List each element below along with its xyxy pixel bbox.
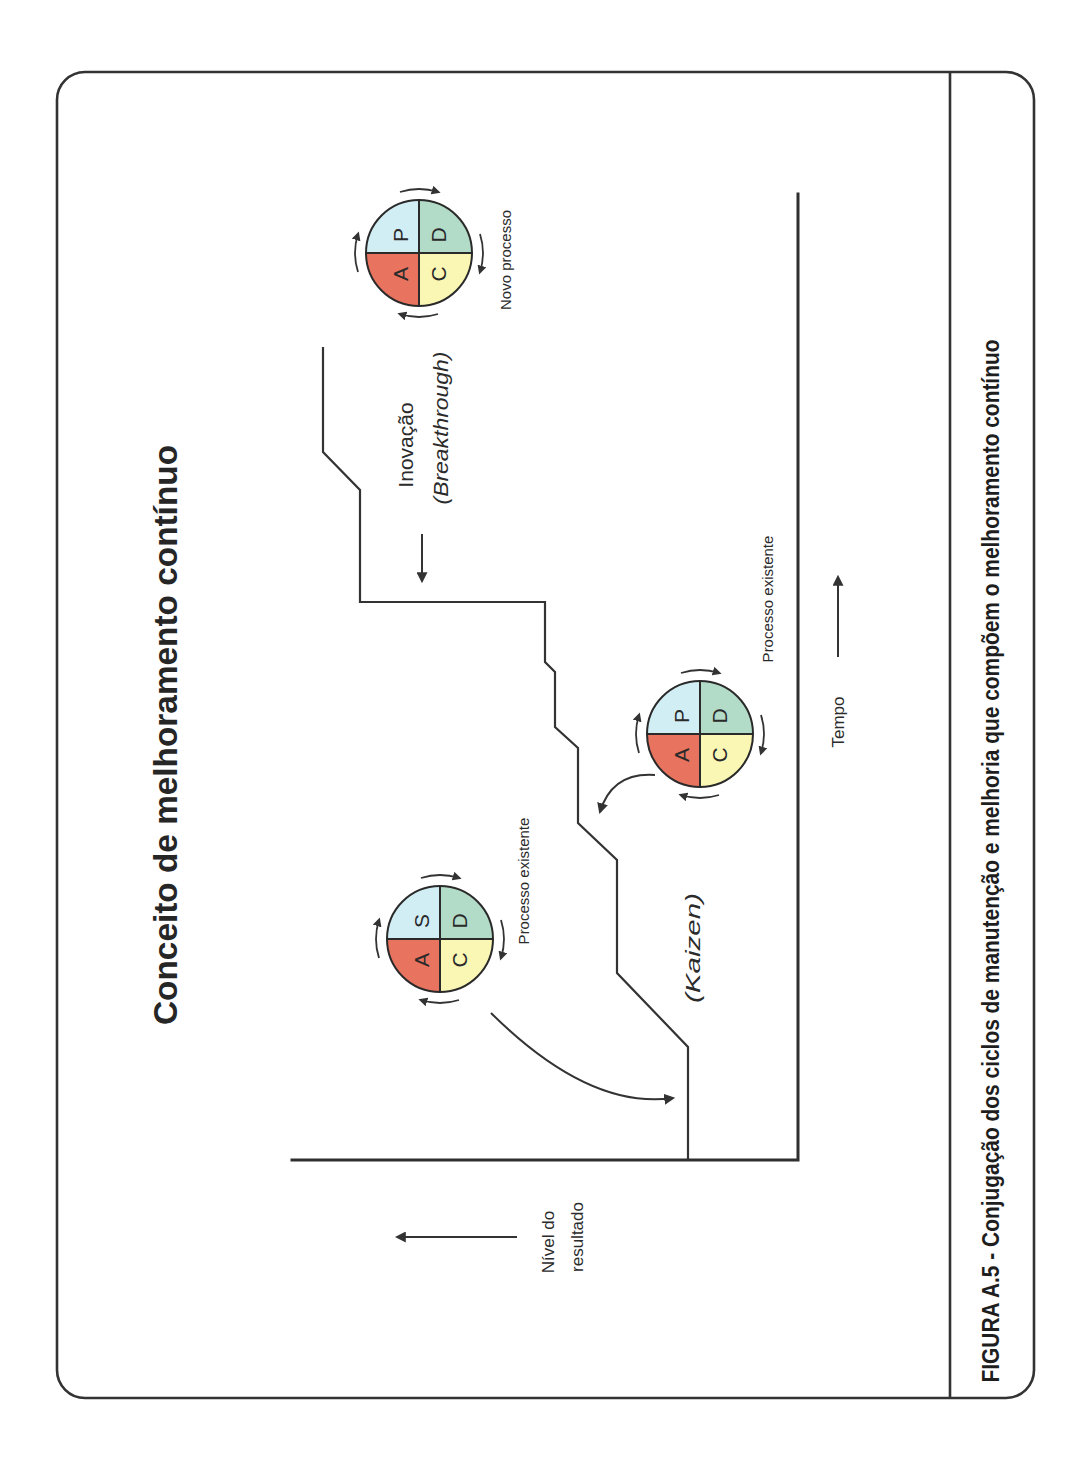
figure-frame xyxy=(57,72,1034,1398)
sdca-cycle-label: Processo existente xyxy=(515,818,532,945)
rotation-arrow-icon xyxy=(501,920,504,958)
x-axis-label: Tempo xyxy=(829,696,848,747)
rotation-arrow-icon xyxy=(636,715,639,753)
quadrant-letter-a: A xyxy=(389,267,412,281)
rotation-arrow-icon xyxy=(421,875,459,878)
quadrant-letter-c: C xyxy=(448,952,471,967)
quadrant-letter-p: P xyxy=(670,709,693,723)
pdca-to-step-arrow-icon xyxy=(600,775,655,812)
sdca-to-kaizen-arrow-icon xyxy=(491,1013,673,1099)
quadrant-letter-a: A xyxy=(670,748,693,762)
kaizen-label: (Kaizen) xyxy=(681,893,704,1003)
quadrant-letter-p: P xyxy=(389,228,412,242)
result-level-staircase xyxy=(323,347,688,1160)
pdca-existing-cycle-diagram: P D C A xyxy=(636,670,764,798)
quadrant-letter-d: D xyxy=(708,708,731,723)
chart-axes xyxy=(292,194,798,1160)
rotation-arrow-icon xyxy=(681,670,719,673)
pdca-new-cycle-diagram: P D C A xyxy=(355,189,483,317)
pdca-new-cycle-label: Novo processo xyxy=(497,210,514,310)
sdca-cycle-diagram: S D C A xyxy=(376,875,504,1003)
quadrant-letter-c: C xyxy=(427,266,450,281)
quadrant-letter-d: D xyxy=(448,913,471,928)
rotation-arrow-icon xyxy=(480,234,483,272)
continuous-improvement-figure: Conceito de melhoramento contínuo FIGURA… xyxy=(0,0,1080,1480)
quadrant-letter-s: S xyxy=(410,914,433,928)
figure-caption: FIGURA A.5 - Conjugação dos ciclos de ma… xyxy=(977,340,1004,1383)
rotation-arrow-icon xyxy=(355,234,358,272)
quadrant-letter-a: A xyxy=(410,953,433,967)
rotation-arrow-icon xyxy=(400,189,438,192)
quadrant-letter-c: C xyxy=(708,747,731,762)
innovation-label: Inovação xyxy=(394,402,417,487)
breakthrough-label: (Breakthrough) xyxy=(429,352,452,505)
figure-title: Conceito de melhoramento contínuo xyxy=(147,445,184,1025)
rotation-arrow-icon xyxy=(421,1000,459,1003)
pdca-existing-cycle-label: Processo existente xyxy=(759,536,776,663)
rotation-arrow-icon xyxy=(400,314,438,317)
rotation-arrow-icon xyxy=(681,795,719,798)
rotation-arrow-icon xyxy=(376,920,379,958)
quadrant-letter-d: D xyxy=(427,227,450,242)
y-axis-label-line1: Nível do xyxy=(539,1211,558,1273)
rotation-arrow-icon xyxy=(761,715,764,753)
y-axis-label-line2: resultado xyxy=(568,1202,587,1272)
